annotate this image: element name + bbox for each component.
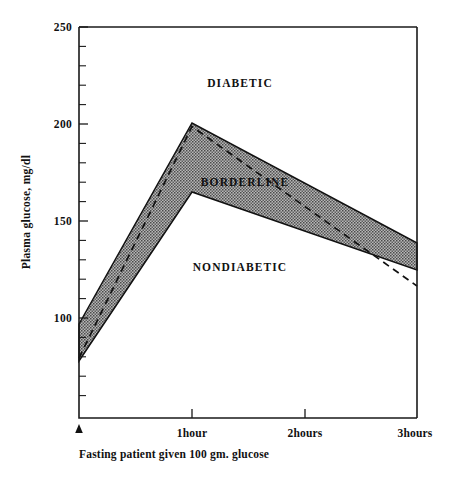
y-axis-title: Plasma glucose, mg/dl xyxy=(20,155,33,270)
y-tick-label-200: 200 xyxy=(54,118,72,130)
region-label-nondiabetic: NONDIABETIC xyxy=(193,261,288,273)
y-tick-label-250: 250 xyxy=(54,21,72,33)
y-tick-label-100: 100 xyxy=(54,312,72,324)
x-axis-caption: Fasting patient given 100 gm. glucose xyxy=(79,448,269,461)
x-tick-label-1hour: 1hour xyxy=(177,427,207,439)
x-tick-label-2hours: 2hours xyxy=(287,427,322,439)
x-tick-label-3hours: 3hours xyxy=(397,427,432,439)
region-label-borderline: BORDERLINE xyxy=(201,176,289,188)
glucose-tolerance-chart-figure: 250 200 150 100 1hour 2hours 3hours DIAB… xyxy=(0,0,451,480)
region-label-diabetic: DIABETIC xyxy=(207,77,273,89)
y-tick-label-150: 150 xyxy=(54,215,72,227)
chart-canvas: 250 200 150 100 1hour 2hours 3hours DIAB… xyxy=(0,0,451,480)
